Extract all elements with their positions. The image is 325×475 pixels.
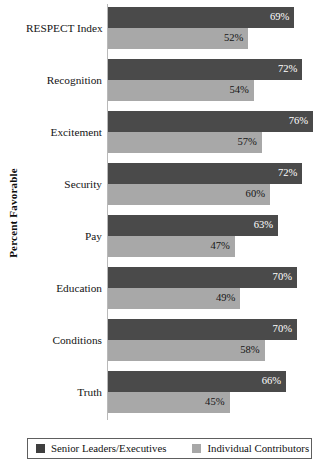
bar-dark: 70%	[108, 319, 297, 340]
category-label-column: RESPECT IndexRecognitionExcitementSecuri…	[26, 4, 107, 424]
category-label: Truth	[26, 386, 102, 398]
bar-dark: 66%	[108, 371, 286, 392]
category-label: Recognition	[26, 74, 102, 86]
bar-group: 69%52%	[108, 7, 325, 49]
legend-label: Senior Leaders/Executives	[51, 443, 166, 454]
bar-value-label: 76%	[289, 116, 313, 127]
bar-group: 70%49%	[108, 267, 325, 309]
category-label-slot: Security	[26, 163, 107, 205]
y-axis-title: Percent Favorable	[7, 168, 19, 258]
bar-group: 76%57%	[108, 111, 325, 153]
category-label: Conditions	[26, 334, 102, 346]
legend-label: Individual Contributors	[207, 443, 309, 454]
bar-value-label: 66%	[262, 376, 286, 387]
bar-dark: 72%	[108, 163, 302, 184]
legend-swatch-icon	[192, 444, 201, 453]
bar-value-label: 69%	[270, 12, 294, 23]
chart-legend: Senior Leaders/ExecutivesIndividual Cont…	[27, 438, 312, 459]
bar-group: 70%58%	[108, 319, 325, 361]
category-label-slot: Education	[26, 267, 107, 309]
bar-value-label: 72%	[278, 64, 302, 75]
bar-light: 60%	[108, 184, 270, 205]
category-label: Security	[26, 178, 102, 190]
bar-value-label: 58%	[240, 345, 264, 356]
bar-dark: 69%	[108, 7, 294, 28]
bar-light: 47%	[108, 236, 235, 257]
category-label: Education	[26, 282, 102, 294]
bar-dark: 70%	[108, 267, 297, 288]
bar-light: 54%	[108, 80, 254, 101]
y-axis-title-container: Percent Favorable	[0, 0, 26, 425]
bar-group: 72%54%	[108, 59, 325, 101]
category-label-slot: RESPECT Index	[26, 7, 107, 49]
bar-dark: 72%	[108, 59, 302, 80]
bar-value-label: 60%	[246, 189, 270, 200]
plot-area: RESPECT IndexRecognitionExcitementSecuri…	[26, 4, 325, 424]
bar-value-label: 70%	[273, 324, 297, 335]
bar-value-label: 49%	[216, 293, 240, 304]
legend-swatch-icon	[36, 444, 45, 453]
bar-light: 57%	[108, 132, 262, 153]
bar-group: 72%60%	[108, 163, 325, 205]
bar-light: 52%	[108, 28, 248, 49]
bar-dark: 63%	[108, 215, 278, 236]
category-label: Excitement	[26, 126, 102, 138]
bar-group: 63%47%	[108, 215, 325, 257]
bar-value-label: 54%	[229, 85, 253, 96]
bar-value-label: 52%	[224, 33, 248, 44]
bar-group: 66%45%	[108, 371, 325, 413]
category-label-slot: Recognition	[26, 59, 107, 101]
legend-item[interactable]: Senior Leaders/Executives	[36, 443, 166, 454]
category-label-slot: Truth	[26, 371, 107, 413]
bar-light: 45%	[108, 392, 230, 413]
category-label-slot: Conditions	[26, 319, 107, 361]
bars-column: 69%52%72%54%76%57%72%60%63%47%70%49%70%5…	[108, 4, 325, 424]
category-label-slot: Pay	[26, 215, 107, 257]
grouped-bar-chart: Percent Favorable RESPECT IndexRecogniti…	[0, 0, 325, 475]
bar-value-label: 70%	[273, 272, 297, 283]
bar-value-label: 45%	[205, 397, 229, 408]
legend-item[interactable]: Individual Contributors	[192, 443, 309, 454]
category-label: Pay	[26, 230, 102, 242]
bar-value-label: 57%	[237, 137, 261, 148]
bar-dark: 76%	[108, 111, 313, 132]
bar-value-label: 47%	[210, 241, 234, 252]
category-label: RESPECT Index	[26, 22, 102, 34]
bar-value-label: 72%	[278, 168, 302, 179]
category-label-slot: Excitement	[26, 111, 107, 153]
bar-light: 49%	[108, 288, 240, 309]
bar-value-label: 63%	[254, 220, 278, 231]
bar-light: 58%	[108, 340, 265, 361]
